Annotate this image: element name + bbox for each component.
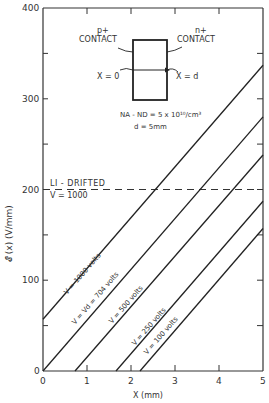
x-tick-3: 3	[172, 376, 178, 386]
x-d-label: X = d	[176, 72, 198, 81]
x-tick-2: 2	[128, 376, 134, 386]
p-contact-label: CONTACT	[79, 35, 117, 44]
series-label-250v: V = 250 volts	[130, 306, 167, 347]
x-axis-label: X (mm)	[133, 391, 163, 400]
y-tick-100: 100	[22, 275, 39, 285]
field-vs-position-chart: 0 1 2 3 4 5 0 100 200 300 400 X (mm) 𝓔 (…	[0, 0, 269, 403]
y-tick-0: 0	[34, 366, 40, 376]
y-axis-label: 𝓔 (x) (V/mm)	[4, 205, 14, 262]
series-100v	[140, 229, 263, 372]
li-drifted-label: LI - DRIFTED	[50, 179, 105, 188]
y-tick-300: 300	[22, 94, 39, 104]
doping-label: NA - ND = 5 x 10¹⁰/cm³	[120, 111, 202, 119]
series-704v	[43, 117, 263, 371]
x-tick-4: 4	[216, 376, 222, 386]
x-tick-1: 1	[84, 376, 90, 386]
x-tick-5: 5	[260, 376, 266, 386]
n-contact-superscript: n+	[195, 26, 207, 35]
p-contact-superscript: p+	[97, 26, 109, 35]
y-tick-400: 400	[22, 3, 39, 13]
x-tick-0: 0	[40, 376, 46, 386]
thickness-label: d = 5mm	[134, 123, 167, 131]
detector-inset-diagram: p+ CONTACT n+ CONTACT X = 0 X = d NA - N…	[79, 26, 215, 131]
y-tick-200: 200	[22, 185, 39, 195]
x-zero-label: X = 0	[97, 72, 119, 81]
n-contact-label: CONTACT	[177, 35, 215, 44]
li-drifted-voltage-label: V = 1000	[50, 191, 88, 200]
